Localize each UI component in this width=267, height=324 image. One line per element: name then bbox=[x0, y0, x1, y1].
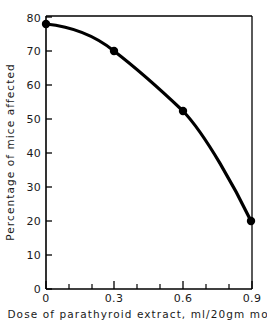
y-tick-label: 10 bbox=[26, 249, 41, 262]
x-tick-label: 0.3 bbox=[105, 292, 123, 305]
x-tick-label: 0.6 bbox=[174, 292, 192, 305]
y-tick-label: 60 bbox=[26, 79, 41, 92]
y-tick-label: 0 bbox=[34, 283, 41, 296]
data-point bbox=[42, 20, 50, 28]
chart-svg: 0 10 20 30 40 50 60 70 80 0 0.3 bbox=[0, 0, 267, 324]
data-point bbox=[110, 47, 118, 55]
y-tick-label: 20 bbox=[26, 215, 41, 228]
y-tick-label: 70 bbox=[26, 45, 41, 58]
y-axis-tick-labels: 0 10 20 30 40 50 60 70 80 bbox=[26, 12, 41, 296]
y-tick-label: 50 bbox=[26, 113, 41, 126]
y-axis-title: Percentage of mice affected bbox=[4, 63, 16, 241]
y-tick-label: 80 bbox=[26, 12, 41, 25]
x-tick-label: 0.9 bbox=[243, 292, 261, 305]
x-axis-title: Dose of parathyroid extract, ml/20gm mou… bbox=[7, 308, 267, 320]
x-tick-label: 0 bbox=[42, 292, 49, 305]
y-tick-label: 40 bbox=[26, 147, 41, 160]
chart-figure: 0 10 20 30 40 50 60 70 80 0 0.3 bbox=[0, 0, 267, 324]
data-point bbox=[247, 217, 255, 225]
y-tick-label: 30 bbox=[26, 181, 41, 194]
data-point bbox=[179, 107, 187, 115]
